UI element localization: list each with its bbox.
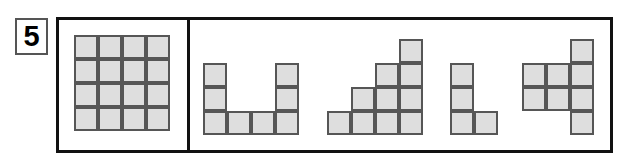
polyomino-cell [203,87,227,111]
polyomino-cell [522,87,546,111]
polyomino-cell [375,111,399,135]
polyomino-cell [203,111,227,135]
polyomino-cell [450,63,474,87]
polyomino-cell [570,63,594,87]
panel-divider [187,20,190,150]
polyomino-cell [327,111,351,135]
polyomino-cell [227,111,251,135]
polyomino-cell [570,39,594,63]
polyomino-cell [399,63,423,87]
problem-number-box: 5 [15,18,48,55]
polyomino-cell [275,111,299,135]
polyomino-cell [546,87,570,111]
polyomino-cell [351,111,375,135]
polyomino-cell [251,111,275,135]
polyomino-cell [474,111,498,135]
polyomino-cell [275,63,299,87]
worksheet-problem: 5 [0,0,630,167]
polyomino-cell [450,111,474,135]
polyomino-cell [351,87,375,111]
polyomino-cell [399,111,423,135]
polyomino-cell [570,87,594,111]
polyomino-cell [375,63,399,87]
polyomino-cell [399,39,423,63]
polyomino-cell [546,63,570,87]
problem-number-label: 5 [17,20,46,53]
polyomino-cell [203,63,227,87]
polyomino-cell [275,87,299,111]
polyomino-cell [399,87,423,111]
polyomino-cell [522,63,546,87]
polyomino-cell [375,87,399,111]
polyomino-cell [570,111,594,135]
polyomino-cell [450,87,474,111]
